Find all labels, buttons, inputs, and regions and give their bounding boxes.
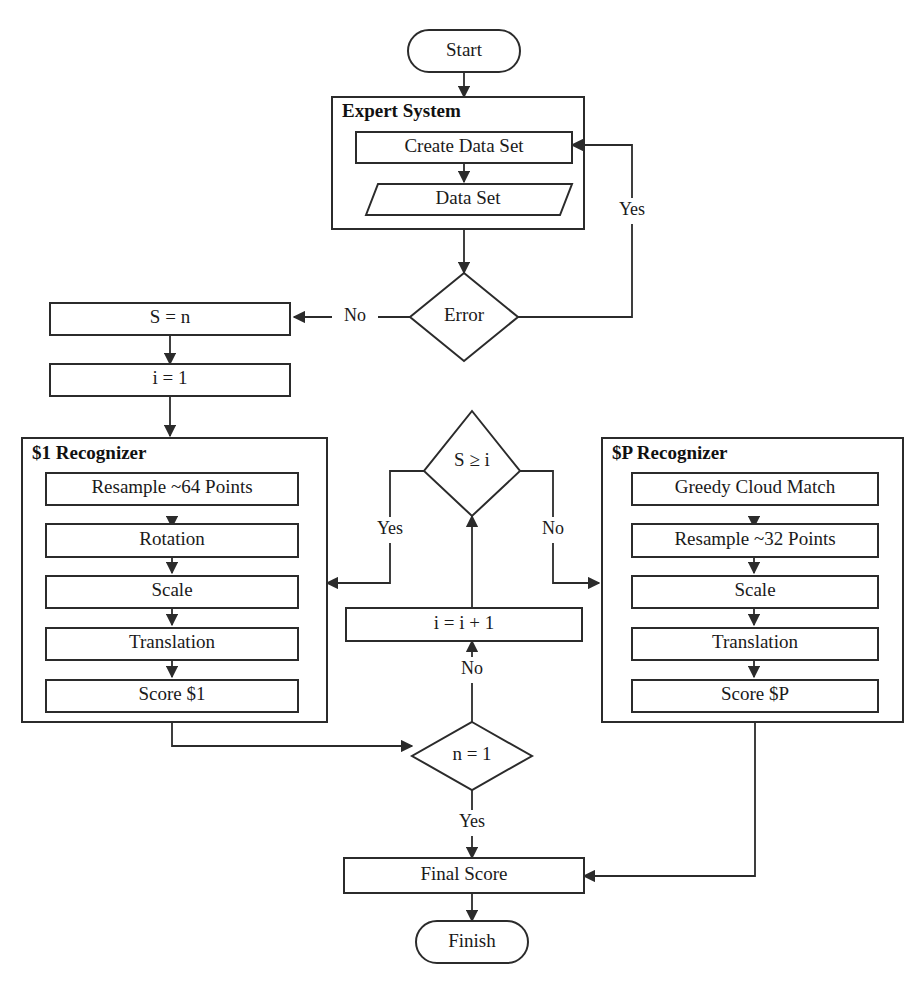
node-start-label: Start [446, 39, 483, 60]
node-data-set-label: Data Set [436, 187, 502, 208]
edge-recognizer-p-to-final-score [584, 722, 755, 876]
node-create-data-set-label: Create Data Set [404, 135, 524, 156]
edge-label-n1-yes: Yes [459, 811, 485, 831]
group-expert-system-title: Expert System [342, 100, 461, 121]
node-rp-greedy-label: Greedy Cloud Match [675, 476, 836, 497]
edge-label-sgei-yes: Yes [377, 518, 403, 538]
node-s-ge-i-label: S ≥ i [454, 449, 490, 470]
edge-label-sgei-no: No [542, 518, 564, 538]
node-r1-translation-label: Translation [129, 631, 215, 652]
node-rp-scale-label: Scale [734, 579, 775, 600]
node-rp-translation-label: Translation [712, 631, 798, 652]
edge-label-error-yes: Yes [619, 199, 645, 219]
node-i-equals-1-label: i = 1 [153, 367, 188, 388]
node-rp-score-label: Score $P [721, 683, 789, 704]
node-r1-scale-label: Scale [151, 579, 192, 600]
group-recognizer-1-title: $1 Recognizer [32, 442, 147, 463]
node-error-label: Error [444, 304, 485, 325]
node-i-increment-label: i = i + 1 [434, 612, 495, 633]
flowchart-svg: S = n --> back to Create Data Set --> $1… [0, 0, 924, 982]
node-rp-resample-label: Resample ~32 Points [674, 528, 835, 549]
edge-recognizer-1-to-n-equals-1 [172, 722, 412, 746]
node-final-score-label: Final Score [420, 863, 507, 884]
node-finish-label: Finish [448, 930, 496, 951]
group-recognizer-p-title: $P Recognizer [612, 442, 728, 463]
edge-label-n1-no: No [461, 658, 483, 678]
edge-error-yes-to-create-data-set [518, 145, 632, 317]
node-n-equals-1-label: n = 1 [452, 743, 491, 764]
node-r1-score-label: Score $1 [138, 683, 205, 704]
edge-label-error-no: No [344, 305, 366, 325]
flowchart-canvas: S = n --> back to Create Data Set --> $1… [0, 0, 924, 982]
node-s-equals-n-label: S = n [150, 306, 191, 327]
node-r1-rotation-label: Rotation [139, 528, 205, 549]
node-r1-resample-label: Resample ~64 Points [91, 476, 252, 497]
